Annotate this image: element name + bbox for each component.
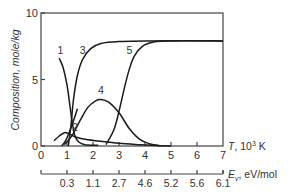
curve-label-2: 2 (72, 121, 78, 133)
secondary-tick-label: 5.2 (164, 177, 179, 189)
curve-label-1: 1 (58, 44, 64, 56)
secondary-tick-label: 1.1 (86, 177, 101, 189)
secondary-tick-label: 4.6 (138, 177, 153, 189)
x-tick-label: 7 (220, 149, 226, 161)
x-tick-label: 3 (116, 149, 122, 161)
x-tick-label: 1 (64, 149, 70, 161)
secondary-axis-title: Ev, eV/mol (228, 168, 277, 182)
y-tick-label: 5 (32, 74, 38, 86)
curves (54, 41, 223, 146)
x-tick-label: 0 (38, 149, 44, 161)
secondary-tick-label: 2.7 (112, 177, 127, 189)
x-tick-label: 2 (90, 149, 96, 161)
curve-labels: 12345 (58, 44, 133, 133)
y-axis-title: Composition, mole/kg (9, 29, 21, 130)
x-axis-title: T, 103 K (228, 140, 266, 152)
y-tick-label: 10 (26, 7, 38, 19)
x-tick-label: 6 (194, 149, 200, 161)
curve-label-5: 5 (126, 44, 132, 56)
curve-5 (106, 41, 223, 145)
y-axis-ticks: 0510 (26, 7, 45, 152)
x-tick-label: 4 (142, 149, 148, 161)
curve-label-3: 3 (80, 44, 86, 56)
curve-4 (64, 99, 160, 145)
curve-3 (68, 41, 223, 146)
secondary-axis-ticks: 0.31.12.74.65.25.66.1 (41, 170, 230, 189)
curve-label-4: 4 (98, 84, 104, 96)
secondary-tick-label: 5.6 (190, 177, 205, 189)
x-tick-label: 5 (168, 149, 174, 161)
plot-frame (41, 13, 223, 146)
secondary-tick-label: 0.3 (60, 177, 75, 189)
chart: 0510 01234567 12345 0.31.12.74.65.25.66.… (0, 0, 289, 196)
